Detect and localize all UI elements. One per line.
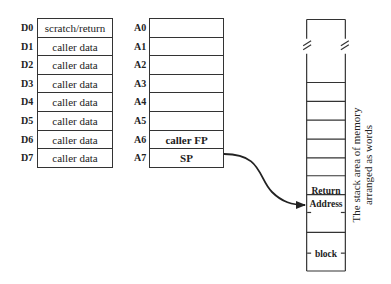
- sp-arrow: [0, 0, 391, 284]
